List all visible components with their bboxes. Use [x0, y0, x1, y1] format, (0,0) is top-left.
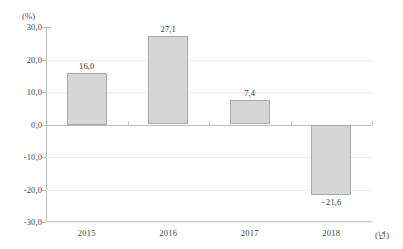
- bar-value-label: 7,4: [220, 88, 280, 98]
- y-axis-tick-label: -20,0: [2, 185, 42, 195]
- y-axis-tick-labels: 30,020,010,00,0-10,0-20,0-30,0: [0, 27, 42, 222]
- x-axis-tick-mark: [291, 121, 292, 125]
- y-axis-tick-label: -30,0: [2, 217, 42, 227]
- y-axis-tick-label: 10,0: [2, 87, 42, 97]
- x-axis-tick-label: 2016: [138, 228, 198, 238]
- y-axis-top-tick: [46, 27, 51, 28]
- bar-value-label: 27,1: [138, 24, 198, 34]
- x-axis-tick-mark: [209, 121, 210, 125]
- y-axis-tick-label: 20,0: [2, 55, 42, 65]
- x-axis-tick-mark: [372, 121, 373, 125]
- y-axis-tick-label: 30,0: [2, 22, 42, 32]
- bar-value-label: 16,0: [57, 61, 117, 71]
- bar: [230, 100, 270, 124]
- x-axis-unit-label: (년): [375, 228, 389, 240]
- bar: [311, 125, 351, 195]
- y-axis-tick-mark: [42, 60, 46, 61]
- y-axis-tick-mark: [42, 190, 46, 191]
- y-axis-tick-label: 0,0: [2, 120, 42, 130]
- y-axis-unit-label: (%): [22, 11, 35, 21]
- y-axis-tick-mark: [42, 157, 46, 158]
- x-axis-tick-mark: [128, 121, 129, 125]
- y-axis-tick-mark: [42, 125, 46, 126]
- x-axis-tick-label: 2018: [301, 228, 361, 238]
- x-axis-tick-label: 2017: [220, 228, 280, 238]
- bar: [148, 36, 188, 124]
- bar-value-label: −21,6: [301, 197, 361, 207]
- y-axis-tick-label: -10,0: [2, 152, 42, 162]
- y-axis-tick-mark: [42, 92, 46, 93]
- x-axis-tick-labels: 2015201620172018: [46, 228, 372, 242]
- plot-area: 16,027,17,4−21,6: [46, 27, 372, 222]
- x-axis-tick-label: 2015: [57, 228, 117, 238]
- y-axis-tick-mark: [42, 222, 46, 223]
- gridline: [46, 222, 372, 223]
- y-axis-tick-mark: [42, 27, 46, 28]
- bar: [67, 73, 107, 125]
